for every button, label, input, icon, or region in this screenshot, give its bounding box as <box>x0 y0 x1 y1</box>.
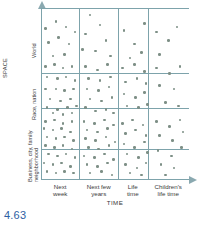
scatter-point <box>158 53 161 56</box>
vertical-gridline <box>118 8 119 180</box>
scatter-point <box>89 14 92 17</box>
y-axis-line <box>41 8 42 180</box>
scatter-point <box>140 174 143 177</box>
scatter-point <box>146 151 149 154</box>
scatter-point <box>47 41 50 44</box>
scatter-point <box>164 101 167 104</box>
scatter-point <box>71 65 74 68</box>
scatter-point <box>46 136 49 139</box>
scatter-point <box>155 120 158 123</box>
scatter-point <box>158 134 161 137</box>
x-axis-label-childrens-life-time: Children's life time <box>142 183 194 198</box>
x-axis-label-line1: Children's <box>155 183 182 190</box>
scatter-point <box>109 76 112 79</box>
scatter-point <box>171 139 174 142</box>
scatter-point <box>136 167 139 170</box>
scatter-point <box>84 65 87 68</box>
scatter-point <box>52 112 55 115</box>
scatter-point <box>114 141 117 144</box>
figure-number: 4.63 <box>4 209 26 221</box>
x-axis-label-line2: life time <box>158 190 179 197</box>
scatter-point <box>72 88 75 91</box>
scatter-point <box>87 77 90 80</box>
scatter-point <box>142 124 145 127</box>
scatter-point <box>126 153 129 156</box>
scatter-point <box>155 31 158 34</box>
scatter-point <box>55 172 58 175</box>
figure-container: SPACE World Race, nation Business, city,… <box>0 0 198 231</box>
scatter-point <box>94 50 97 53</box>
scatter-point <box>123 29 126 32</box>
scatter-point <box>53 146 56 149</box>
scatter-point <box>53 119 56 122</box>
scatter-point <box>59 100 62 103</box>
scatter-point <box>74 79 77 82</box>
scatter-point <box>52 163 55 166</box>
scatter-point <box>65 26 68 29</box>
scatter-point <box>46 170 49 173</box>
horizontal-gridline <box>41 108 189 109</box>
scatter-point <box>65 76 68 79</box>
scatter-point <box>131 119 134 122</box>
scatter-point <box>136 77 139 80</box>
scatter-point <box>57 36 60 39</box>
scatter-point <box>179 65 182 68</box>
x-axis-title: TIME <box>85 199 145 206</box>
scatter-point <box>44 27 47 30</box>
scatter-point <box>137 106 140 109</box>
scatter-point <box>121 67 124 70</box>
scatter-point <box>173 167 176 170</box>
scatter-point <box>44 88 47 91</box>
scatter-point <box>56 155 59 158</box>
scatter-point <box>134 129 137 132</box>
scatter-point <box>167 39 170 42</box>
scatter-point <box>158 84 161 87</box>
scatter-point <box>180 146 183 149</box>
scatter-point <box>46 76 49 79</box>
scatter-point <box>112 158 115 161</box>
scatter-point <box>72 172 75 175</box>
scatter-point <box>143 22 146 25</box>
scatter-point <box>170 155 173 158</box>
scatter-point <box>71 120 74 123</box>
scatter-point <box>124 132 127 135</box>
scatter-point <box>111 174 114 177</box>
scatter-point <box>81 48 84 51</box>
scatter-point <box>124 163 127 166</box>
scatter-point <box>63 170 66 173</box>
scatter-point <box>112 112 115 115</box>
scatter-point <box>106 127 109 130</box>
scatter-point <box>63 89 66 92</box>
scatter-point <box>96 165 99 168</box>
scatter-point <box>121 122 124 125</box>
scatter-point <box>133 146 136 149</box>
scatter-point <box>60 162 63 165</box>
x-axis-label-line1: Life <box>128 183 138 190</box>
scatter-point <box>89 98 92 101</box>
scatter-point <box>83 155 86 158</box>
scatter-point <box>179 119 182 122</box>
scatter-point <box>89 172 92 175</box>
scatter-point <box>109 55 112 58</box>
scatter-point <box>100 170 103 173</box>
scatter-point <box>93 122 96 125</box>
scatter-point <box>137 156 140 159</box>
scatter-point <box>56 108 59 111</box>
scatter-point <box>108 144 111 147</box>
scatter-point <box>44 120 47 123</box>
scatter-point <box>111 96 114 99</box>
scatter-point <box>99 24 102 27</box>
scatter-point <box>157 149 160 152</box>
scatter-point <box>94 139 97 142</box>
plot-area <box>41 8 189 180</box>
scatter-point <box>103 153 106 156</box>
scatter-point <box>133 43 136 46</box>
scatter-point <box>62 144 65 147</box>
x-axis-label-line2: time <box>127 190 139 197</box>
scatter-point <box>168 125 171 128</box>
scatter-point <box>143 70 146 73</box>
scatter-point <box>60 127 63 130</box>
y-axis-title: SPACE <box>2 22 12 78</box>
scatter-point <box>69 98 72 101</box>
horizontal-gridline <box>41 8 189 9</box>
